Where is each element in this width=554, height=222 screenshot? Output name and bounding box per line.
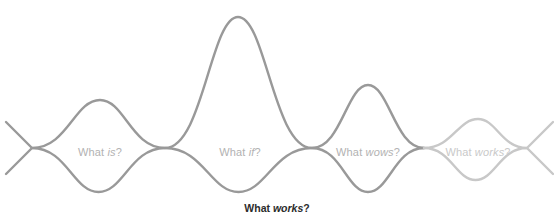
lower-wave-path [6, 122, 424, 192]
caption-prefix: What [244, 202, 273, 214]
caption-suffix: ? [303, 202, 309, 214]
wave-curves [0, 0, 554, 222]
upper-wave-tail-path [424, 119, 553, 174]
caption-emphasis: works [273, 202, 303, 214]
upper-wave-path [6, 17, 424, 174]
lower-wave-tail-path [424, 122, 553, 180]
diagram-caption: What works? [244, 202, 309, 214]
design-process-diagram: What is? What if? What wows? What works?… [0, 0, 554, 222]
